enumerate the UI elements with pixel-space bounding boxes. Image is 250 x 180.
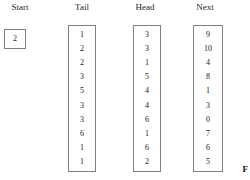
array-cell: 6	[134, 141, 160, 155]
array-cell: 3	[194, 98, 222, 112]
array-cell: 6	[134, 113, 160, 127]
array-cell: 0	[194, 113, 222, 127]
array-cell: 4	[134, 84, 160, 98]
start-value-box: 2	[4, 29, 26, 49]
array-cell: 4	[194, 56, 222, 70]
array-cell: 3	[69, 113, 95, 127]
array-cell: 5	[134, 70, 160, 84]
array-column-tail: 1 2 2 3 5 3 3 6 1 1	[68, 25, 96, 172]
array-cell: 4	[134, 98, 160, 112]
array-cell: 1	[69, 141, 95, 155]
caption-fragment: F	[243, 164, 249, 174]
array-cell: 3	[69, 98, 95, 112]
array-cell: 2	[69, 56, 95, 70]
array-cell: 6	[194, 141, 222, 155]
column-header-tail: Tail	[62, 2, 102, 13]
array-cell: 5	[194, 155, 222, 169]
column-header-head: Head	[122, 2, 168, 13]
array-cell: 1	[194, 84, 222, 98]
array-cell: 2	[134, 155, 160, 169]
array-cell: 5	[69, 84, 95, 98]
column-header-start: Start	[0, 2, 40, 13]
column-header-next: Next	[182, 2, 228, 13]
array-cell: 3	[134, 28, 160, 42]
linked-list-array-figure: Start Tail Head Next 2 1 2 2 3 5 3 3 6 1…	[0, 0, 250, 180]
array-column-head: 3 3 1 5 4 4 6 1 6 2	[133, 25, 161, 172]
array-cell: 2	[69, 42, 95, 56]
array-cell: 7	[194, 127, 222, 141]
array-cell: 3	[69, 70, 95, 84]
array-column-next: 9 10 4 8 1 3 0 7 6 5	[193, 25, 223, 172]
array-cell: 1	[69, 155, 95, 169]
array-cell: 1	[134, 56, 160, 70]
array-cell: 3	[134, 42, 160, 56]
array-cell: 1	[69, 28, 95, 42]
array-cell: 6	[69, 127, 95, 141]
array-cell: 8	[194, 70, 222, 84]
array-cell: 1	[134, 127, 160, 141]
array-cell: 10	[194, 42, 222, 56]
array-cell: 9	[194, 28, 222, 42]
